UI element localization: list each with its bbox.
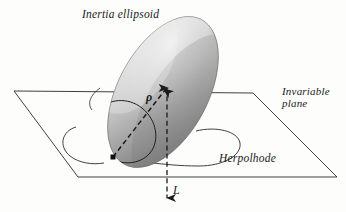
label-invariable-plane-line2: plane	[282, 97, 307, 109]
figure-canvas: Inertia ellipsoid Invariableplane Herpol…	[0, 0, 346, 212]
label-invariable-plane: Invariableplane	[282, 86, 330, 109]
contact-point-marker	[111, 155, 116, 160]
label-angular-momentum: L	[173, 183, 180, 198]
label-invariable-plane-line1: Invariable	[282, 85, 330, 97]
label-herpolhode: Herpolhode	[219, 152, 276, 164]
label-rho: ρ	[146, 90, 152, 105]
label-inertia-ellipsoid: Inertia ellipsoid	[82, 8, 159, 20]
